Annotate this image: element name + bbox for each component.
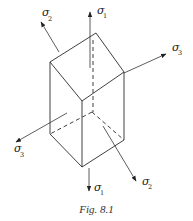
sigma3-right-arrow: [124, 54, 166, 73]
label-sigma3-left: σ 3: [14, 142, 24, 159]
top-face: [50, 33, 124, 101]
sigma2-up-arrow: [41, 22, 59, 52]
svg-text:1: 1: [103, 12, 107, 20]
svg-text:3: 3: [178, 49, 182, 57]
sigma3-left-arrow: [16, 113, 67, 142]
svg-text:2: 2: [48, 15, 52, 23]
principal-stress-diagram: σ 1 σ 2 σ 3 σ 3 σ 1 σ 2: [0, 0, 193, 221]
prism: [50, 33, 124, 167]
label-sigma2-bottom: σ 2: [142, 175, 152, 191]
bottom-edges: [50, 134, 124, 167]
svg-text:2: 2: [148, 183, 152, 191]
svg-text:1: 1: [100, 189, 104, 197]
sigma2-down-arrow: [103, 126, 136, 181]
label-sigma3-right: σ 3: [172, 41, 182, 57]
label-sigma1-bottom: σ 1: [94, 181, 104, 197]
label-sigma2-top: σ 2: [42, 6, 52, 23]
label-sigma1-top: σ 1: [97, 4, 107, 20]
hidden-edge-left: [50, 112, 92, 134]
svg-text:3: 3: [20, 151, 24, 159]
hidden-edge-right: [92, 112, 124, 140]
figure-caption: Fig. 8.1: [0, 203, 193, 215]
